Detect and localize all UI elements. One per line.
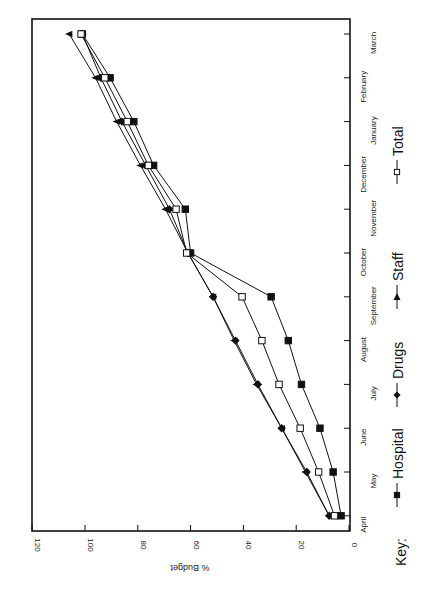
filled-triangle-marker xyxy=(136,162,143,168)
open-square-marker xyxy=(239,294,245,300)
filled-triangle-icon xyxy=(394,293,401,300)
filled-square-icon xyxy=(394,492,399,497)
month-label: March xyxy=(369,32,378,54)
value-axis-title: % Budget xyxy=(170,563,210,573)
open-square-icon xyxy=(394,169,399,174)
plot-frame xyxy=(32,19,350,531)
value-tick-label: 100 xyxy=(86,538,95,552)
value-axis: 020406080100120 xyxy=(32,525,359,552)
legend-item-hospital: Hospital xyxy=(390,428,406,507)
filled-square-marker xyxy=(268,294,274,300)
filled-square-marker xyxy=(285,337,291,343)
value-tick-label: 20 xyxy=(297,541,306,550)
open-square-marker xyxy=(315,469,321,475)
value-tick-label: 80 xyxy=(139,541,148,550)
open-square-marker xyxy=(124,118,130,124)
open-square-marker xyxy=(102,75,108,81)
open-square-marker xyxy=(276,381,282,387)
month-label: November xyxy=(369,199,378,236)
month-label: December xyxy=(359,156,368,193)
value-tick-label: 60 xyxy=(192,541,201,550)
series-total xyxy=(78,31,338,519)
series-line xyxy=(81,34,334,516)
legend-label: Hospital xyxy=(390,428,406,479)
series-hospital xyxy=(79,31,344,519)
value-tick-label: 40 xyxy=(244,541,253,550)
series-line xyxy=(82,34,341,516)
legend-item-total: Total xyxy=(390,126,406,184)
month-label: April xyxy=(359,517,368,533)
month-label: January xyxy=(369,116,378,144)
filled-square-marker xyxy=(338,513,344,519)
open-square-marker xyxy=(259,337,265,343)
legend-item-staff: Staff xyxy=(390,252,406,309)
filled-triangle-marker xyxy=(161,206,168,212)
rotated-line-chart: 020406080100120 AprilMayJuneJulyAugustSe… xyxy=(0,0,426,591)
filled-triangle-marker xyxy=(65,31,72,37)
month-label: September xyxy=(369,286,378,325)
open-square-marker xyxy=(183,250,189,256)
legend-key-label: Key: xyxy=(393,538,409,566)
open-square-marker xyxy=(173,206,179,212)
filled-square-marker xyxy=(298,381,304,387)
open-square-marker xyxy=(145,162,151,168)
filled-square-marker xyxy=(317,425,323,431)
filled-square-marker xyxy=(330,469,336,475)
legend: Key:HospitalDrugsStaffTotal xyxy=(390,126,409,566)
month-label: June xyxy=(359,428,368,446)
month-label: August xyxy=(359,336,368,362)
series-line xyxy=(69,34,329,516)
legend-label: Drugs xyxy=(390,342,406,379)
filled-triangle-marker xyxy=(91,75,98,81)
series-layer xyxy=(65,30,344,520)
legend-label: Staff xyxy=(390,252,406,281)
filled-square-marker xyxy=(131,118,137,124)
value-tick-label: 0 xyxy=(350,543,359,548)
filled-diamond-icon xyxy=(393,391,400,398)
filled-square-marker xyxy=(182,206,188,212)
legend-item-drugs: Drugs xyxy=(390,342,406,407)
month-label: February xyxy=(359,71,368,103)
month-axis: AprilMayJuneJulyAugustSeptemberOctoberNo… xyxy=(344,32,378,533)
month-label: October xyxy=(359,247,368,276)
month-label: May xyxy=(369,473,378,488)
value-tick-label: 120 xyxy=(33,538,42,552)
series-drugs xyxy=(78,30,333,520)
legend-label: Total xyxy=(390,126,406,156)
open-square-marker xyxy=(78,31,84,37)
open-square-marker xyxy=(331,513,337,519)
open-square-marker xyxy=(297,425,303,431)
filled-triangle-marker xyxy=(112,118,119,124)
month-label: July xyxy=(369,386,378,400)
